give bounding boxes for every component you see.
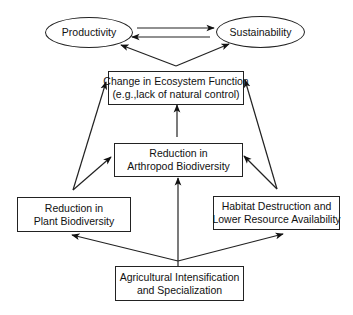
node-plant-line2: Plant Biodiversity [34,215,115,228]
node-productivity-label: Productivity [62,26,116,39]
node-ecosystem-function: Change in Ecosystem Function (e.g.,lack … [108,71,244,105]
node-agricultural-intensification: Agricultural Intensification and Special… [115,266,244,301]
node-plant-biodiversity: Reduction in Plant Biodiversity [17,197,131,232]
arrow-agriculture-to-plant [72,235,178,261]
arrow-ecosystem-to-sustainability [176,44,229,66]
node-productivity: Productivity [45,17,133,48]
node-agriculture-line2: and Specialization [137,284,222,297]
arrow-plant-to-arthropod [73,157,111,190]
node-habitat-destruction: Habitat Destruction and Lower Resource A… [213,196,340,230]
node-habitat-line1: Habitat Destruction and [222,200,332,213]
node-arthropod-line1: Reduction in [149,147,207,160]
node-sustainability: Sustainability [216,16,305,48]
arrow-plant-to-ecosystem [73,82,106,190]
node-agriculture-line1: Agricultural Intensification [120,271,240,284]
arrow-agriculture-to-habitat [178,234,283,261]
node-ecosystem-line2: (e.g.,lack of natural control) [112,88,239,101]
node-arthropod-biodiversity: Reduction in Arthropod Biodiversity [114,143,243,177]
node-habitat-line2: Lower Resource Availability [212,213,340,226]
node-ecosystem-line1: Change in Ecosystem Function [103,75,248,88]
node-sustainability-label: Sustainability [230,26,292,39]
node-plant-line1: Reduction in [45,202,103,215]
node-arthropod-line2: Arthropod Biodiversity [127,160,230,173]
arrow-ecosystem-to-productivity [121,45,176,66]
